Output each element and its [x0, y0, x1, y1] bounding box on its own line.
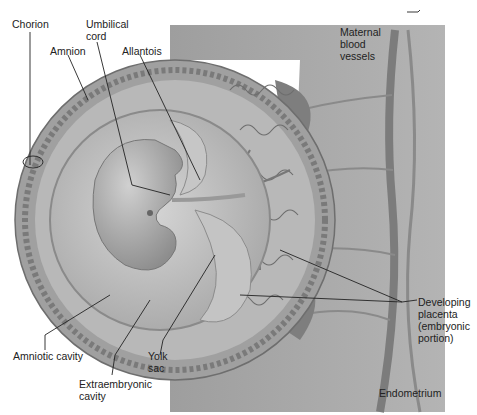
label-maternal-blood-vessels: Maternal blood vessels: [340, 26, 381, 62]
diagram-stage: Chorion Umbilical cord Amnion Allantois …: [0, 0, 477, 415]
label-umbilical-cord: Umbilical cord: [86, 18, 129, 42]
label-amnion: Amnion: [50, 45, 86, 57]
label-chorion: Chorion: [12, 18, 49, 30]
label-amniotic-cavity: Amniotic cavity: [13, 350, 83, 362]
label-developing-placenta: Developing placenta (embryonic portion): [418, 296, 471, 344]
label-yolk-sac: Yolk sac: [148, 350, 167, 374]
label-extraembryonic-cavity: Extraembryonic cavity: [79, 378, 152, 402]
label-endometrium: Endometrium: [379, 387, 441, 399]
label-allantois: Allantois: [122, 45, 162, 57]
